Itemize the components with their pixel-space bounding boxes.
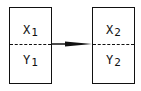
- node-2-divider: [93, 44, 134, 45]
- arrowhead-icon: [65, 42, 92, 47]
- node-1-top-label: X1: [10, 24, 51, 37]
- node-2-bottom-label: Y2: [93, 54, 134, 67]
- node-box-1: X1 Y1: [9, 7, 52, 84]
- node-1-bottom-label: Y1: [10, 54, 51, 67]
- node-box-2: X2 Y2: [92, 7, 135, 84]
- node-1-divider: [10, 44, 51, 45]
- node-2-top-label: X2: [93, 24, 134, 37]
